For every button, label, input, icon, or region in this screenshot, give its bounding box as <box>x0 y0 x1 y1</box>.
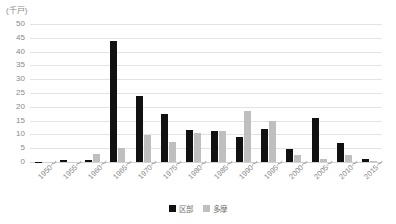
bar-group <box>256 24 281 162</box>
bar-group <box>105 24 130 162</box>
bar-group <box>80 24 105 162</box>
y-axis-tick-label: 0 <box>21 158 25 166</box>
bar-ku <box>85 160 92 162</box>
x-axis-tick: 1980～ <box>181 163 206 205</box>
legend-label: 区部 <box>179 203 193 214</box>
bar-group <box>156 24 181 162</box>
x-axis-tick: 1995～ <box>256 163 281 205</box>
bar-ku <box>362 159 369 162</box>
y-axis-tick-label: 45 <box>16 34 25 42</box>
bar-group <box>55 24 80 162</box>
y-axis-tick-label: 40 <box>16 48 25 56</box>
bar-group <box>332 24 357 162</box>
legend-item: 区部 <box>169 203 193 214</box>
bar-group <box>231 24 256 162</box>
x-axis-tick: 1955～ <box>55 163 80 205</box>
bar-group <box>131 24 156 162</box>
y-axis-tick-label: 20 <box>16 103 25 111</box>
y-axis: 50454035302520151050 <box>0 24 28 162</box>
bar-ku <box>261 129 268 162</box>
y-axis-tick-label: 5 <box>21 144 25 152</box>
bar-tama <box>269 121 276 162</box>
bar-ku <box>136 96 143 162</box>
y-axis-unit-label: (千戸) <box>6 4 27 15</box>
legend-item: 多摩 <box>203 203 227 214</box>
x-axis-tick: 2015～ <box>357 163 382 205</box>
bar-ku <box>286 149 293 162</box>
bar-ku <box>60 160 67 162</box>
bar-ku <box>312 118 319 162</box>
legend-label: 多摩 <box>213 203 227 214</box>
chart-legend: 区部多摩 <box>0 203 396 214</box>
y-axis-tick-label: 10 <box>16 130 25 138</box>
y-axis-tick-label: 15 <box>16 117 25 125</box>
bar-ku <box>110 41 117 162</box>
x-axis-tick: 2000～ <box>281 163 306 205</box>
y-axis-tick-label: 30 <box>16 75 25 83</box>
x-axis-tick: 2005～ <box>307 163 332 205</box>
bar-ku <box>337 143 344 162</box>
bars-layer <box>30 24 382 162</box>
x-axis: 1950～1955～1960～1965～1970～1975～1980～1985～… <box>30 163 382 205</box>
bar-tama <box>244 111 251 162</box>
bar-group <box>181 24 206 162</box>
bar-group <box>307 24 332 162</box>
x-axis-tick: 1990～ <box>231 163 256 205</box>
x-axis-tick: 1950～ <box>30 163 55 205</box>
bar-ku <box>211 131 218 162</box>
gray-square-icon <box>203 205 210 212</box>
bar-ku <box>186 130 193 162</box>
x-axis-tick: 2010～ <box>332 163 357 205</box>
x-axis-tick: 1970～ <box>131 163 156 205</box>
x-axis-tick: 1965～ <box>105 163 130 205</box>
x-axis-tick: 1975～ <box>156 163 181 205</box>
plot-area <box>30 24 382 162</box>
bar-group <box>281 24 306 162</box>
bar-group <box>30 24 55 162</box>
x-axis-tick: 1985～ <box>206 163 231 205</box>
y-axis-tick-label: 50 <box>16 20 25 28</box>
bar-ku <box>161 114 168 162</box>
x-axis-tick: 1960～ <box>80 163 105 205</box>
y-axis-tick-label: 25 <box>16 89 25 97</box>
black-square-icon <box>169 205 176 212</box>
bar-group <box>357 24 382 162</box>
bar-chart: (千戸) 50454035302520151050 1950～1955～1960… <box>0 0 396 224</box>
y-axis-tick-label: 35 <box>16 61 25 69</box>
bar-ku <box>236 137 243 162</box>
bar-group <box>206 24 231 162</box>
